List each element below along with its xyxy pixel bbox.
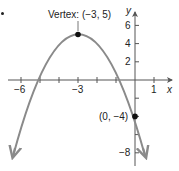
parabola-chart: Vertex: (−3, 5) (0, −4) −6 −3 1 x 6 4 2 … [0,0,179,171]
tick-label-x-neg3: −3 [72,84,84,95]
tick-label-x-1: 1 [151,84,157,95]
tick-label-x-neg6: −6 [14,84,26,95]
y-axis-label: y [125,5,132,16]
vertex-point [75,32,81,38]
tick-label-y-2: 2 [125,56,131,67]
vertex-label: Vertex: (−3, 5) [48,9,111,20]
intercept-label: (0, −4) [99,111,128,122]
intercept-point [132,114,138,120]
tick-label-y-6: 6 [125,20,131,31]
x-axis-label: x [166,84,173,95]
tick-label-y-neg8: −8 [119,147,131,158]
tick-label-y-4: 4 [125,38,131,49]
left-arrow [13,148,15,156]
right-arrow [143,148,146,156]
